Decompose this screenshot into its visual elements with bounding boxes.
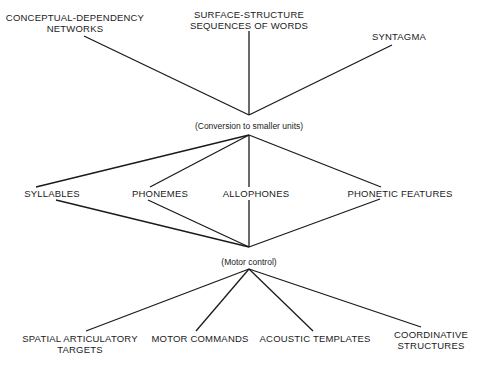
connector-lines (0, 0, 480, 371)
node-acoustic-templates: ACOUSTIC TEMPLATES (260, 333, 371, 344)
process-conversion-to-smaller-units: (Conversion to smaller units) (195, 121, 303, 131)
edge-conceptual (84, 36, 249, 115)
edge-syntagma (249, 45, 392, 115)
edge-phonetic-features (249, 199, 380, 247)
edge-conversion-to-phonetic-features (249, 135, 381, 187)
node-spatial-articulatory-targets: SPATIAL ARTICULATORY TARGETS (22, 333, 138, 355)
node-phonetic-features: PHONETIC FEATURES (347, 188, 452, 199)
node-line: NETWORKS (6, 23, 144, 34)
speech-production-diagram: CONCEPTUAL-DEPENDENCY NETWORKS SURFACE-S… (0, 0, 480, 371)
node-conceptual-dependency-networks: CONCEPTUAL-DEPENDENCY NETWORKS (6, 12, 144, 34)
edge-motor-control-to-spatial (86, 269, 249, 331)
edge-phonemes (148, 200, 249, 247)
node-phonemes: PHONEMES (132, 188, 188, 199)
node-line: SEQUENCES OF WORDS (190, 20, 308, 31)
node-syllables: SYLLABLES (24, 188, 80, 199)
node-line: SYNTAGMA (372, 31, 426, 42)
process-motor-control: (Motor control) (221, 257, 276, 267)
node-line: STRUCTURES (394, 340, 468, 351)
node-line: SURFACE-STRUCTURE (190, 9, 308, 20)
edge-motor-control-to-coordinative (249, 269, 421, 327)
edge-conversion-to-phonemes (150, 135, 249, 187)
node-line: PHONEMES (132, 188, 188, 199)
node-line: COORDINATIVE (394, 329, 468, 340)
node-line: ALLOPHONES (223, 188, 289, 199)
node-surface-structure: SURFACE-STRUCTURE SEQUENCES OF WORDS (190, 9, 308, 31)
node-allophones: ALLOPHONES (223, 188, 289, 199)
edge-conversion-to-syllables (36, 135, 249, 187)
node-line: SPATIAL ARTICULATORY (22, 333, 138, 344)
edge-motor-control-to-acoustic (249, 269, 313, 331)
node-motor-commands: MOTOR COMMANDS (151, 333, 248, 344)
node-line: CONCEPTUAL-DEPENDENCY (6, 12, 144, 23)
node-coordinative-structures: COORDINATIVE STRUCTURES (394, 329, 468, 351)
node-line: MOTOR COMMANDS (151, 333, 248, 344)
node-line: PHONETIC FEATURES (347, 188, 452, 199)
edge-syllables (56, 200, 249, 247)
node-syntagma: SYNTAGMA (372, 31, 426, 42)
node-line: TARGETS (22, 344, 138, 355)
node-line: ACOUSTIC TEMPLATES (260, 333, 371, 344)
node-line: SYLLABLES (24, 188, 80, 199)
edge-motor-control-to-motor-commands (196, 269, 249, 331)
